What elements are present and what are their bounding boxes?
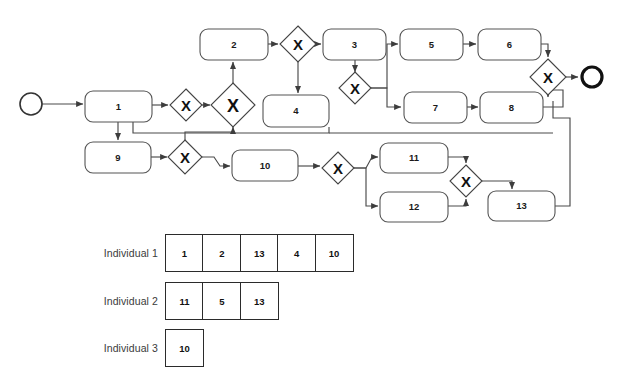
gateway-g3[interactable]: X [280, 26, 316, 62]
gateway-g1[interactable]: X [170, 89, 202, 121]
individual-1-cell-4[interactable]: 4 [277, 234, 316, 272]
flow-g8-to-t13 [482, 181, 512, 189]
task-11-label: 11 [409, 152, 420, 163]
individual-3-label: Individual 3 [78, 342, 165, 354]
task-9-label: 9 [115, 152, 120, 163]
individual-2-cell-3[interactable]: 13 [240, 282, 279, 320]
individual-1-cell-3[interactable]: 13 [240, 234, 279, 272]
flow-g4-to-t7 [371, 88, 401, 107]
task-12-label: 12 [409, 201, 420, 212]
gateway-g4[interactable]: X [339, 72, 371, 104]
task-8-label: 8 [509, 102, 514, 113]
task-5[interactable]: 5 [400, 29, 463, 60]
flow-g6-to-t10 [202, 157, 230, 166]
task-4[interactable]: 4 [263, 95, 329, 127]
task-7-label: 7 [433, 102, 438, 113]
gateway-g7[interactable]: X [322, 152, 354, 184]
task-1-label: 1 [116, 101, 122, 112]
task-2[interactable]: 2 [200, 29, 268, 60]
flow-g7-to-t12 [354, 168, 378, 206]
task-12[interactable]: 12 [380, 192, 448, 222]
gateway-g5-label: X [543, 69, 553, 86]
gateway-g6[interactable]: X [168, 140, 202, 174]
individual-2-cells: 11 5 13 [165, 282, 279, 320]
task-10[interactable]: 10 [232, 150, 298, 181]
start-event [20, 93, 42, 115]
task-8[interactable]: 8 [480, 92, 543, 123]
task-13-label: 13 [516, 200, 527, 211]
gateway-g7-label: X [333, 160, 343, 177]
individual-2-cell-2[interactable]: 5 [202, 282, 241, 320]
individual-row-3: Individual 3 10 [78, 329, 204, 367]
gateway-g6-label: X [180, 149, 190, 166]
gateway-g2[interactable]: X [211, 83, 255, 127]
task-13[interactable]: 13 [488, 191, 555, 221]
task-6[interactable]: 6 [478, 29, 541, 60]
task-5-label: 5 [429, 39, 435, 50]
task-3-label: 3 [352, 39, 357, 50]
individual-1-cell-2[interactable]: 2 [202, 234, 241, 272]
individual-3-cells: 10 [165, 329, 204, 367]
task-1[interactable]: 1 [85, 91, 152, 122]
gateway-g8-label: X [461, 173, 471, 190]
individual-1-label: Individual 1 [78, 247, 165, 259]
individual-1-cell-5[interactable]: 10 [315, 234, 354, 272]
task-4-label: 4 [293, 105, 299, 116]
individual-2-label: Individual 2 [78, 295, 165, 307]
task-11[interactable]: 11 [380, 143, 448, 173]
individual-3-cell-1[interactable]: 10 [165, 329, 204, 367]
task-6-label: 6 [507, 39, 512, 50]
flow-t12-to-g8 [448, 199, 466, 206]
gateway-g8[interactable]: X [450, 165, 482, 197]
individual-row-2: Individual 2 11 5 13 [78, 282, 279, 320]
gateway-g4-label: X [350, 80, 360, 97]
individual-2-cell-1[interactable]: 11 [165, 282, 204, 320]
task-10-label: 10 [260, 160, 271, 171]
flow-t6-to-g5 [541, 44, 548, 57]
task-7[interactable]: 7 [404, 92, 467, 123]
flow-g7-to-t11 [354, 157, 378, 168]
individual-1-cells: 1 2 13 4 10 [165, 234, 354, 272]
flow-t13-to-g5 [553, 101, 570, 206]
gateway-g2-label: X [227, 96, 239, 116]
gateway-g1-label: X [181, 97, 191, 114]
flow-t11-to-g8 [448, 157, 466, 163]
end-event [582, 67, 602, 87]
diagram-canvas: 1 2 3 4 5 6 7 8 [0, 0, 635, 392]
individual-row-1: Individual 1 1 2 13 4 10 [78, 234, 354, 272]
individual-1-cell-1[interactable]: 1 [165, 234, 204, 272]
gateway-g3-label: X [293, 36, 303, 53]
task-9[interactable]: 9 [85, 142, 151, 173]
task-3[interactable]: 3 [323, 29, 386, 60]
task-2-label: 2 [231, 39, 236, 50]
